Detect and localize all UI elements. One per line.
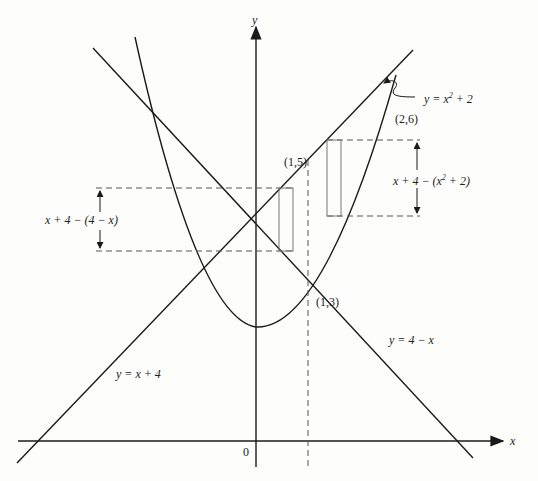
parabola-label-lhs: y = [424, 92, 443, 106]
right-height-prefix: x + 4 − ( [393, 174, 437, 188]
right-height-label: x + 4 − (x2 + 2) [393, 174, 470, 187]
point-label-2-6: (2,6) [395, 113, 418, 125]
x-axis-label: x [510, 435, 515, 447]
right-height-suffix: + 2) [446, 174, 470, 188]
parabola-curve [135, 37, 396, 327]
parabola-label-leader [384, 81, 415, 97]
diagram-canvas: y x 0 y = x2 + 2 y = x + 4 y = 4 − x (1,… [0, 0, 538, 481]
right-strip-rectangle [327, 140, 341, 216]
point-label-1-3: (1,3) [316, 296, 339, 308]
origin-label: 0 [243, 446, 249, 458]
line-falling-label: y = 4 − x [389, 334, 434, 346]
parabola-label-tail: + 2 [453, 92, 473, 106]
y-axis-label: y [252, 14, 257, 26]
left-height-label: x + 4 − (4 − x) [45, 214, 118, 226]
line-rising-label: y = x + 4 [116, 368, 161, 380]
line-y-equals-x-plus-4 [17, 50, 413, 463]
point-label-1-5: (1,5) [284, 156, 307, 168]
diagram-svg [0, 0, 538, 481]
parabola-label: y = x2 + 2 [424, 92, 473, 105]
left-strip-rectangle [279, 188, 293, 251]
line-y-equals-4-minus-x [93, 48, 473, 458]
